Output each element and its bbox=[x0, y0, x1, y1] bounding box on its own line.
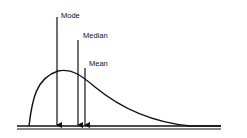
distribution-diagram: Mode Median Mean bbox=[0, 0, 247, 138]
mean-label: Mean bbox=[89, 59, 108, 68]
mode-label: Mode bbox=[61, 11, 80, 20]
skewed-distribution-curve bbox=[29, 70, 221, 126]
median-label: Median bbox=[83, 31, 108, 40]
